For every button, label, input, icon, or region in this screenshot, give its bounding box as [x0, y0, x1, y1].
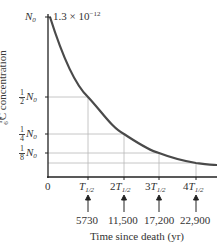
year-label-1: 5730 [76, 215, 98, 226]
x-tick-2t-half: 2T1/2 [110, 181, 131, 194]
decay-chart [0, 0, 217, 245]
x-tick-3t-half: 3T1/2 [145, 181, 166, 194]
y-tick-eighth: 18N0 [19, 145, 37, 162]
x-axis-label: Time since death (yr) [90, 231, 184, 242]
y-tick-quarter: 14N0 [19, 126, 37, 143]
grid-lines [48, 97, 196, 177]
decay-curve [50, 17, 217, 165]
year-label-3: 17,200 [144, 215, 174, 226]
y-tick-half: 12N0 [19, 89, 37, 106]
year-label-2: 11,500 [108, 215, 138, 226]
year-label-4: 22,900 [180, 215, 210, 226]
y-axis-label: 146C concentration [0, 50, 10, 123]
x-tick-4t-half: 4T1/2 [183, 181, 204, 194]
y-tick-n0: N0 [25, 11, 36, 24]
initial-concentration-annotation: 1.3 × 10−12 [53, 11, 100, 22]
year-arrows [86, 195, 199, 212]
ticks [45, 17, 196, 180]
x-tick-t-half: T1/2 [79, 181, 94, 194]
x-tick-origin: 0 [45, 181, 51, 192]
